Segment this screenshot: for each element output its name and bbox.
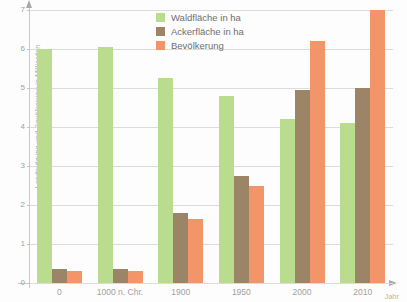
bar-bev	[188, 219, 203, 283]
bar-acker	[295, 90, 310, 283]
bar-chart: Landnutzung und Bevölkerung in Milliarde…	[0, 0, 407, 302]
y-axis-tick-label: 5	[21, 84, 25, 92]
legend-swatch-wald-icon	[156, 13, 165, 22]
legend-label-wald: Waldfläche in ha	[171, 12, 241, 23]
y-axis-tick-label: 2	[21, 201, 25, 209]
x-axis-tick-label: 0	[29, 287, 90, 297]
y-axis-arrow-icon	[26, 0, 32, 8]
bar-bev	[249, 186, 264, 284]
legend-label-acker: Ackerfläche in ha	[171, 26, 244, 37]
x-axis-title: Jahr	[384, 292, 399, 301]
bar-wald	[37, 49, 52, 283]
x-axis-tick-label: 2000	[272, 287, 333, 297]
legend-item-acker: Ackerfläche in ha	[156, 24, 244, 38]
bar-acker	[113, 269, 128, 283]
gridline: 0	[29, 283, 393, 284]
bar-bev	[370, 10, 385, 283]
bar-bev	[128, 271, 143, 283]
chart-legend: Waldfläche in ha Ackerfläche in ha Bevöl…	[156, 10, 244, 52]
bar-acker	[234, 176, 249, 283]
y-axis-tick-label: 0	[21, 279, 25, 287]
bar-wald	[158, 78, 173, 283]
legend-swatch-acker-icon	[156, 27, 165, 36]
legend-item-wald: Waldfläche in ha	[156, 10, 244, 24]
y-axis-tick-mark	[27, 283, 30, 284]
bar-acker	[52, 269, 67, 283]
bar-group	[29, 10, 90, 283]
bar-group	[272, 10, 333, 283]
bar-group	[90, 10, 151, 283]
y-axis-tick-label: 4	[21, 123, 25, 131]
y-axis-tick-label: 1	[21, 240, 25, 248]
x-axis-tick-label: 1900	[150, 287, 211, 297]
x-axis-tick-labels: 01000 n. Chr.1900195020002010	[29, 287, 393, 297]
x-axis-tick-label: 1000 n. Chr.	[90, 287, 151, 297]
y-axis-tick-label: 3	[21, 162, 25, 170]
bar-wald	[340, 123, 355, 283]
bar-bev	[67, 271, 82, 283]
bar-wald	[219, 96, 234, 283]
legend-label-bevoelkerung: Bevölkerung	[171, 40, 224, 51]
y-axis-tick-label: 7	[21, 6, 25, 14]
legend-item-bevoelkerung: Bevölkerung	[156, 38, 244, 52]
bar-acker	[355, 88, 370, 283]
y-axis-tick-label: 6	[21, 45, 25, 53]
legend-swatch-bevoelkerung-icon	[156, 41, 165, 50]
bar-wald	[280, 119, 295, 283]
bar-wald	[98, 47, 113, 283]
bar-bev	[310, 41, 325, 283]
bar-acker	[173, 213, 188, 283]
bar-group	[332, 10, 393, 283]
x-axis-tick-label: 1950	[211, 287, 272, 297]
